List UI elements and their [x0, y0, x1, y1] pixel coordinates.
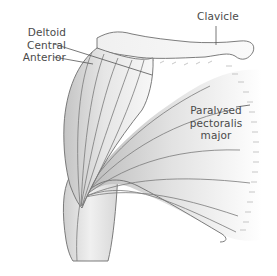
shoulder-anatomy-diagram: Deltoid Central Anterior Clavicle Paraly… [0, 0, 277, 276]
deltoid-label: Deltoid Central Anterior [14, 26, 66, 64]
clavicle-label: Clavicle [197, 10, 239, 23]
pectoralis-label-line-2: pectoralis [186, 117, 246, 130]
deltoid-label-line-1: Deltoid [14, 26, 66, 39]
pectoralis-label-line-3: major [186, 129, 246, 142]
clavicle-label-text: Clavicle [197, 10, 239, 23]
deltoid-label-line-3: Anterior [14, 51, 66, 64]
pectoralis-label: Paralysed pectoralis major [186, 104, 246, 142]
pectoralis-label-line-1: Paralysed [186, 104, 246, 117]
deltoid-label-line-2: Central [14, 39, 66, 52]
